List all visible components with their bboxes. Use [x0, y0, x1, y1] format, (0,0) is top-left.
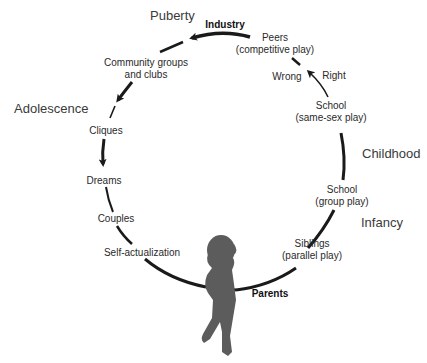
node-school-same-sex: School (same-sex play): [295, 100, 366, 124]
arc-dash-cliques: [110, 106, 115, 118]
arc-couples-self: [117, 226, 132, 244]
arrow-community-cliques: [118, 82, 132, 100]
peers-sublabel: (competitive play): [236, 44, 314, 56]
node-cliques: Cliques: [89, 125, 122, 137]
stage-childhood: Childhood: [362, 146, 421, 161]
node-parents: Parents: [252, 288, 289, 300]
node-couples: Couples: [98, 213, 135, 225]
arc-self-parents: [145, 259, 206, 287]
node-industry: Industry: [205, 19, 244, 31]
node-peers: Peers (competitive play): [236, 32, 314, 56]
school-group-label: School: [315, 184, 368, 196]
siblings-sublabel: (parallel play): [282, 250, 342, 262]
community-sublabel: and clubs: [104, 69, 188, 81]
arc-dash-community: [160, 42, 183, 52]
node-right: Right: [322, 70, 345, 82]
stage-infancy: Infancy: [361, 215, 403, 230]
community-label: Community groups: [104, 57, 188, 69]
arc-dreams-couples: [106, 187, 113, 212]
arc-dash-peers: [292, 58, 300, 65]
school-same-sex-sublabel: (same-sex play): [295, 112, 366, 124]
development-cycle-diagram: [0, 0, 427, 363]
child-figure-icon: [202, 235, 237, 356]
arc-school-school: [341, 133, 344, 180]
peers-label: Peers: [236, 32, 314, 44]
school-group-sublabel: (group play): [315, 196, 368, 208]
arrow-cliques-dreams: [103, 139, 104, 164]
node-school-group: School (group play): [315, 184, 368, 208]
node-siblings: Siblings (parallel play): [282, 238, 342, 262]
node-wrong: Wrong: [272, 71, 301, 83]
stage-adolescence: Adolescence: [14, 101, 88, 116]
siblings-label: Siblings: [282, 238, 342, 250]
stage-puberty: Puberty: [150, 8, 195, 23]
node-community: Community groups and clubs: [104, 57, 188, 81]
arc-parents-siblings: [236, 268, 296, 290]
school-same-sex-label: School: [295, 100, 366, 112]
node-self-actualization: Self-actualization: [104, 247, 180, 259]
node-dreams: Dreams: [86, 175, 121, 187]
